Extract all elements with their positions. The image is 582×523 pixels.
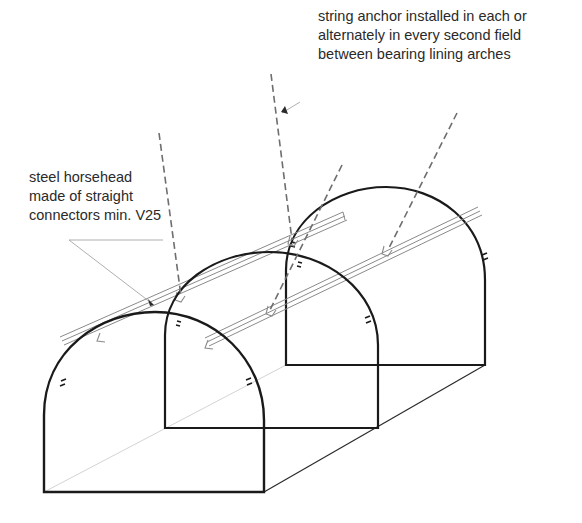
steel-horsehead-label-line-1: steel horsehead <box>29 169 132 185</box>
string-anchor-label-line-3: between bearing lining arches <box>318 46 511 62</box>
connector-clips <box>97 236 392 349</box>
upper-rail <box>60 212 347 345</box>
steel-horsehead-label-line-3: connectors min. V25 <box>29 207 161 223</box>
tunnel-diagram <box>0 0 582 523</box>
diagram-canvas: string anchor installed in each or alter… <box>0 0 582 523</box>
middle-arch <box>165 252 378 428</box>
string-anchors <box>159 74 457 310</box>
anchor-line-1 <box>159 133 181 296</box>
anchor-line-3 <box>270 165 342 310</box>
string-anchor-label-line-1: string anchor installed in each or <box>318 8 527 24</box>
steel-horsehead-label: steel horsehead made of straight connect… <box>29 168 161 225</box>
anchor-line-2 <box>271 74 292 240</box>
horsehead-leader-diagonal <box>69 240 150 302</box>
string-anchor-label: string anchor installed in each or alter… <box>318 7 527 64</box>
anchor-line-4 <box>388 113 457 250</box>
back-arch <box>286 187 488 365</box>
steel-horsehead-label-line-2: made of straight <box>29 188 133 204</box>
string-anchor-label-line-2: alternately in every second field <box>318 27 521 43</box>
